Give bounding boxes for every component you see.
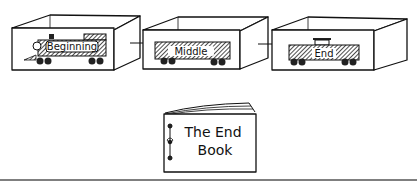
story-train-diagram: Beginning Middle End bbox=[0, 0, 417, 182]
label-middle: Middle bbox=[174, 46, 207, 57]
label-beginning: Beginning bbox=[47, 41, 97, 52]
book-title-line1: The End bbox=[183, 124, 241, 140]
book-title-line2: Book bbox=[198, 142, 234, 158]
label-end: End bbox=[314, 48, 333, 59]
